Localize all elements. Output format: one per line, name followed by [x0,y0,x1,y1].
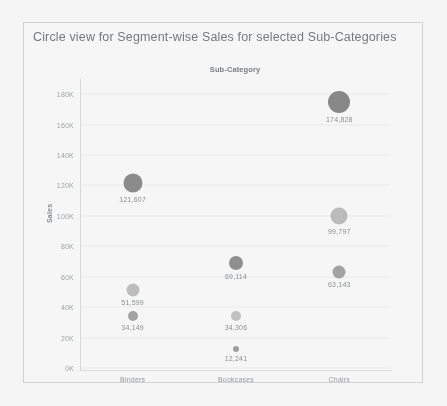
y-axis-tick-label: 0K [65,365,74,372]
y-axis-tick-label: 80K [61,243,74,250]
plot-area: 0K20K40K60K80K100K120K140K160K180KBinder… [81,79,391,368]
y-axis-tick-label: 180K [57,91,74,98]
screenshot-root: Circle view for Segment-wise Sales for s… [0,0,447,406]
data-point-label: 34,149 [121,324,144,331]
data-point-bubble[interactable] [128,311,138,321]
chart-card: Circle view for Segment-wise Sales for s… [23,22,423,383]
gridline [81,368,391,369]
data-point-label: 63,143 [328,281,351,288]
y-axis-tick-label: 60K [61,273,74,280]
y-axis-tick-label: 160K [57,121,74,128]
data-point-bubble[interactable] [231,311,241,321]
legend-header: Sub-Category [24,65,424,74]
data-point-bubble[interactable] [331,208,348,225]
x-axis-tick-label: Bookcases [218,376,254,383]
gridline [81,337,391,338]
data-point-label: 51,599 [121,299,144,306]
data-point-bubble[interactable] [229,256,243,270]
data-point-label: 34,306 [225,324,248,331]
data-point-bubble[interactable] [233,346,239,352]
y-axis-tick-label: 120K [57,182,74,189]
y-axis-title: Sales [46,204,53,223]
gridline [81,124,391,125]
x-axis-line [80,370,392,371]
y-axis-tick-label: 20K [61,334,74,341]
data-point-bubble[interactable] [333,265,346,278]
data-point-bubble[interactable] [123,174,142,193]
data-point-label: 12,241 [225,355,248,362]
y-axis-tick-label: 140K [57,152,74,159]
x-axis-tick-label: Binders [120,376,145,383]
x-axis-tick-label: Chairs [329,376,350,383]
data-point-bubble[interactable] [126,283,139,296]
gridline [81,155,391,156]
y-axis-tick-label: 100K [57,212,74,219]
data-point-label: 174,828 [326,116,353,123]
gridline [81,246,391,247]
data-point-label: 69,114 [225,273,247,280]
gridline [81,307,391,308]
data-point-label: 121,607 [119,196,146,203]
page-title: Circle view for Segment-wise Sales for s… [33,30,397,44]
data-point-bubble[interactable] [328,91,350,113]
data-point-label: 99,797 [328,228,351,235]
y-axis-tick-label: 40K [61,304,74,311]
